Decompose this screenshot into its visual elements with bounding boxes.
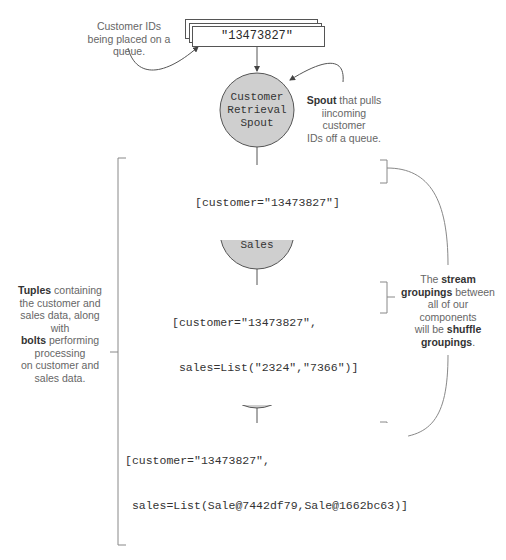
right-bracket-2 [380,282,387,313]
spout-annotation: Spout that pulls iincoming customer IDs … [302,94,386,144]
right-bracket-1 [380,160,387,183]
spout-annotation-arrow [290,63,343,82]
storm-topology-diagram: "13473827" Customer IDs being placed on … [0,0,506,560]
tuple-2: [customer="13473827", sales=List("2324",… [172,285,358,405]
groupings-annotation: The stream groupings between all of our … [398,273,498,348]
queue-value: "13473827" [192,29,322,43]
groupings-curve-top [387,168,448,265]
queue-annotation: Customer IDs being placed on a queue. [84,20,174,58]
spout-node-label: Customer Retrieval Spout [219,91,295,130]
tuple-1: [customer="13473827"] [195,165,340,240]
tuples-bolts-annotation: Tuples containing the customer and sales… [10,284,110,384]
tuple-3: [customer="13473827", sales=List(Sale@74… [125,423,408,543]
